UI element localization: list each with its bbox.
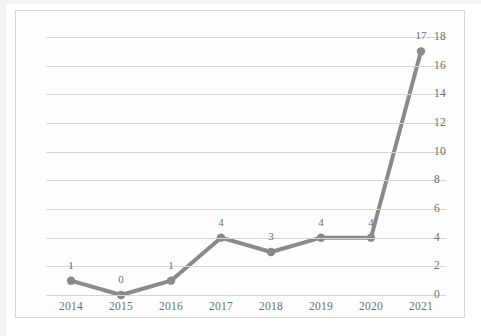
gridline (46, 152, 446, 153)
gridline (46, 295, 446, 296)
data-point-marker (67, 276, 75, 284)
chart-frame: 1816141210864202014201520162017201820192… (15, 10, 465, 318)
y-axis-tick-label: 0 (434, 289, 464, 301)
y-axis-tick-label: 18 (434, 31, 464, 43)
scan-edge-top (0, 0, 481, 4)
gridline (46, 123, 446, 124)
y-axis-tick-label: 14 (434, 88, 464, 100)
y-axis-tick-label: 4 (434, 232, 464, 244)
series-line (71, 51, 421, 295)
y-axis-tick-label: 8 (434, 174, 464, 186)
gridline (46, 66, 446, 67)
y-axis-tick-label: 12 (434, 117, 464, 129)
line-series-svg (46, 37, 446, 295)
data-point-marker (167, 276, 175, 284)
y-axis-tick-label: 16 (434, 60, 464, 72)
y-axis-tick-label: 10 (434, 146, 464, 158)
x-axis-tick-label: 2017 (194, 301, 248, 313)
data-point-label: 4 (208, 217, 234, 228)
x-axis-tick-label: 2018 (244, 301, 298, 313)
data-point-label: 17 (408, 30, 434, 41)
data-point-label: 1 (58, 260, 84, 271)
x-axis-tick-label: 2015 (94, 301, 148, 313)
x-axis-tick-label: 2019 (294, 301, 348, 313)
data-point-label: 1 (158, 260, 184, 271)
series-markers (67, 47, 425, 299)
data-point-marker (417, 47, 425, 55)
x-axis-tick-label: 2016 (144, 301, 198, 313)
gridline (46, 180, 446, 181)
scan-edge-left (0, 0, 6, 336)
gridline (46, 209, 446, 210)
x-axis-tick-label: 2021 (394, 301, 448, 313)
gridline (46, 238, 446, 239)
plot-area (46, 37, 446, 295)
x-axis-tick-label: 2020 (344, 301, 398, 313)
gridline (46, 94, 446, 95)
y-axis-tick-label: 2 (434, 260, 464, 272)
data-point-label: 0 (108, 274, 134, 285)
y-axis-tick-label: 6 (434, 203, 464, 215)
gridline (46, 266, 446, 267)
gridline (46, 37, 446, 38)
data-point-label: 4 (358, 217, 384, 228)
figure-container: 1816141210864202014201520162017201820192… (0, 0, 481, 336)
x-axis-tick-label: 2014 (44, 301, 98, 313)
data-point-label: 3 (258, 231, 284, 242)
data-point-label: 4 (308, 217, 334, 228)
data-point-marker (267, 248, 275, 256)
